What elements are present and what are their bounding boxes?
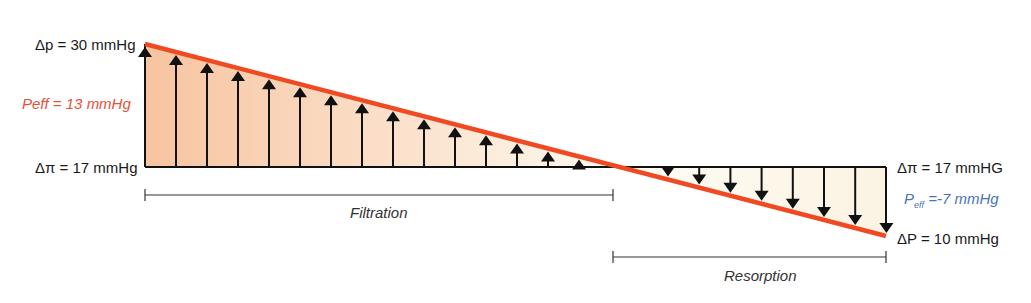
resorption-bracket (613, 251, 886, 263)
filtration-bracket (145, 189, 613, 201)
oncotic-pressure-arterial-label: Δπ = 17 mmHg (35, 159, 137, 176)
filtration-label: Filtration (350, 204, 408, 221)
hydrostatic-pressure-arterial-label: Δp = 30 mmHg (35, 36, 135, 53)
resorption-label: Resorption (724, 267, 797, 284)
oncotic-pressure-venous-label: Δπ = 17 mmHG (897, 159, 1003, 176)
hydrostatic-pressure-venous-label: ΔP = 10 mmHg (897, 230, 999, 247)
starling-diagram (0, 0, 1031, 303)
effective-pressure-filtration-label: Peff = 13 mmHg (22, 95, 131, 112)
effective-pressure-resorption-label: Peff =-7 mmHg (904, 190, 999, 210)
